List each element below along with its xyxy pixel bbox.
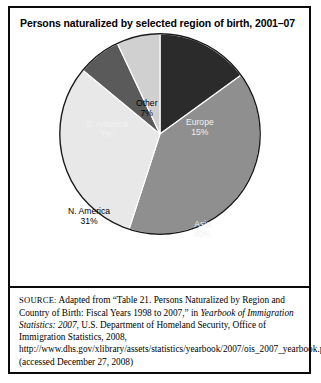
source-note: SOURCE: Adapted from “Table 21. Persons … — [10, 288, 309, 372]
source-note-kicker: SOURCE: — [19, 295, 57, 305]
pie-chart: Europe 15% Asia 40% N. America 31% S. Am… — [10, 29, 309, 286]
pie-slices — [60, 34, 260, 234]
figure-frame: Persons naturalized by selected region o… — [8, 6, 311, 374]
pie-chart-svg — [57, 31, 263, 237]
page-title: Persons naturalized by selected region o… — [10, 8, 309, 29]
